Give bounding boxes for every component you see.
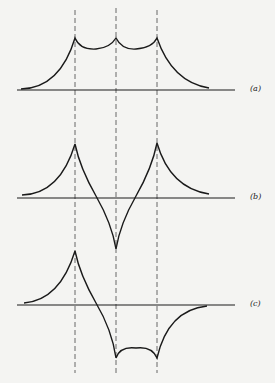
label-b: (b): [250, 192, 261, 201]
potential-diagram: [0, 0, 275, 383]
panel-c: [17, 251, 235, 358]
label-a: (a): [250, 84, 261, 93]
curve-a: [21, 38, 209, 89]
panel-b: [17, 143, 235, 249]
dashed-guides: [75, 8, 157, 373]
panel-a: [17, 38, 235, 90]
label-c: (c): [250, 299, 261, 308]
curve-b: [22, 143, 209, 249]
